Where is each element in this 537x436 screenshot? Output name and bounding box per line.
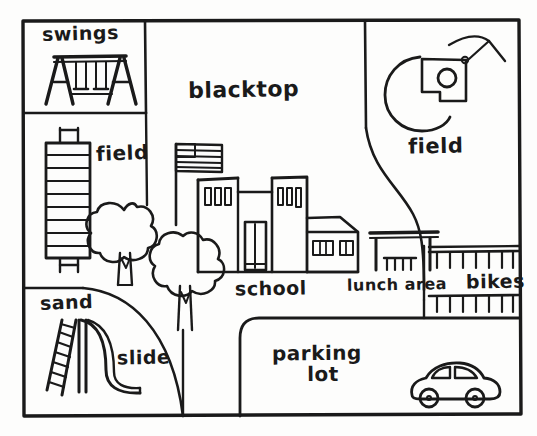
zone-label-field-right: field [408, 135, 464, 158]
divider-blacktop-fieldright [365, 21, 366, 128]
picnic-table-drawing [370, 232, 438, 270]
baseball-diamond-drawing [385, 36, 505, 131]
hand-drawn-campus-map: swings blacktop field field school lunch… [0, 0, 537, 436]
zone-label-slide: slide [117, 348, 171, 369]
bikes-top-edge [429, 246, 519, 247]
zone-label-lunch-area: lunch area [347, 276, 447, 295]
zone-label-blacktop: blacktop [188, 77, 300, 102]
monkey-bars-drawing [46, 128, 90, 272]
swing-set-drawing [46, 56, 136, 104]
parking-label-line2: lot [284, 364, 362, 386]
tree-upper-drawing [86, 203, 156, 285]
car-drawing [412, 363, 500, 407]
map-drawing [0, 0, 537, 436]
zone-label-parking-lot: parkinglot [272, 343, 362, 386]
zone-label-school: school [235, 278, 307, 299]
bike-rack-bottom-drawing [429, 295, 519, 312]
divider-swings-blacktop [145, 21, 146, 113]
zone-label-field-left: field [96, 142, 149, 165]
zone-label-bikes: bikes [466, 271, 525, 292]
zone-label-swings: swings [42, 23, 119, 45]
zone-label-sand: sand [40, 292, 94, 314]
tree-lower-drawing [150, 233, 224, 330]
bike-rack-top-drawing [429, 251, 519, 268]
school-building-drawing [198, 177, 358, 272]
